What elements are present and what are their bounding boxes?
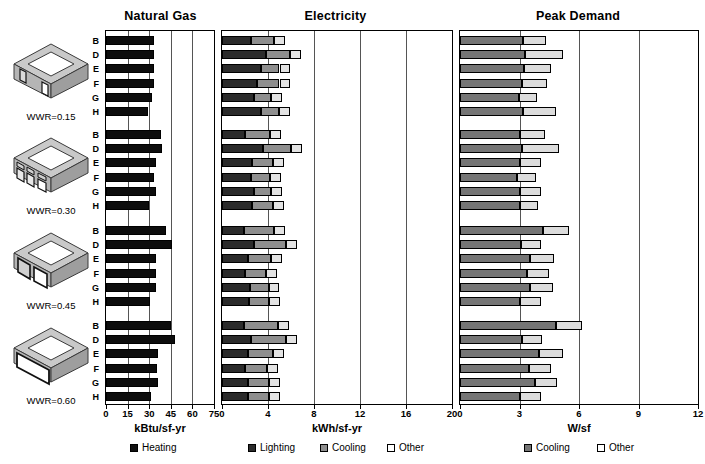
axis-tick-peak_demand-3: 3	[507, 408, 533, 419]
legend-label-other-el: Other	[399, 442, 424, 453]
axis-tick-natural_gas-30: 30	[136, 408, 162, 419]
plot-peak-demand	[459, 30, 699, 405]
legend-electricity-other: Other	[387, 443, 424, 453]
axis-tick-peak_demand-0: 0	[447, 408, 473, 419]
axis-tick-natural_gas-15: 15	[115, 408, 141, 419]
gridline	[579, 31, 580, 404]
legend-label-cooling-pd: Cooling	[536, 442, 570, 453]
tick-mark	[314, 405, 315, 409]
tick-mark	[106, 405, 107, 409]
axis-tick-peak_demand-9: 9	[626, 408, 652, 419]
legend-swatch-other-pd	[597, 444, 605, 452]
building-icon-wwr-060	[10, 322, 92, 394]
tick-mark	[268, 405, 269, 409]
tick-mark	[452, 405, 453, 409]
axis-title-electricity: kWh/sf-yr	[222, 422, 452, 434]
axis-tick-electricity-20: 20	[439, 408, 465, 419]
axis-tick-natural_gas-0: 0	[93, 408, 119, 419]
wwr-label-3: WWR=0.60	[10, 395, 92, 406]
legend-label-lighting: Lighting	[260, 442, 295, 453]
building-icon-wwr-030	[10, 132, 92, 204]
panel-title-peak-demand: Peak Demand	[458, 9, 698, 23]
tick-mark	[460, 405, 461, 409]
tick-mark	[520, 405, 521, 409]
legend-peak-other: Other	[597, 443, 634, 453]
gridline	[314, 31, 315, 404]
panel-title-electricity: Electricity	[218, 9, 453, 23]
legend-swatch-lighting	[248, 444, 256, 452]
axis-tick-peak_demand-12: 12	[685, 408, 705, 419]
building-icon-wwr-015	[10, 38, 92, 110]
tick-mark	[406, 405, 407, 409]
tick-mark	[579, 405, 580, 409]
gridline	[520, 31, 521, 404]
legend-peak-cooling: Cooling	[524, 443, 570, 453]
legend-swatch-other-el	[387, 444, 395, 452]
axis-tick-electricity-12: 12	[347, 408, 373, 419]
axis-tick-electricity-4: 4	[255, 408, 281, 419]
tick-mark	[192, 405, 193, 409]
legend-electricity-lighting: Lighting	[248, 443, 295, 453]
plot-natural-gas	[105, 30, 215, 405]
legend-label-cooling-el: Cooling	[332, 442, 366, 453]
tick-mark	[149, 405, 150, 409]
wwr-label-2: WWR=0.45	[10, 300, 92, 311]
tick-mark	[222, 405, 223, 409]
tick-mark	[360, 405, 361, 409]
legend-label-heating: Heating	[142, 442, 176, 453]
axis-tick-peak_demand-6: 6	[566, 408, 592, 419]
axis-tick-natural_gas-45: 45	[158, 408, 184, 419]
axis-tick-natural_gas-60: 60	[179, 408, 205, 419]
gridline	[268, 31, 269, 404]
wwr-label-1: WWR=0.30	[10, 205, 92, 216]
gridline	[149, 31, 150, 404]
legend-natural-gas-heating: Heating	[130, 443, 176, 453]
legend-swatch-cooling-el	[320, 444, 328, 452]
axis-title-natural_gas: kBtu/sf-yr	[106, 422, 214, 434]
building-icon-wwr-045	[10, 227, 92, 299]
tick-mark	[128, 405, 129, 409]
panel-title-natural-gas: Natural Gas	[98, 9, 223, 23]
gridline	[406, 31, 407, 404]
top-caption	[30, 0, 670, 9]
axis-tick-electricity-16: 16	[393, 408, 419, 419]
gridline	[192, 31, 193, 404]
plot-electricity	[221, 30, 453, 405]
wwr-label-0: WWR=0.15	[10, 111, 92, 122]
legend-electricity-cooling: Cooling	[320, 443, 366, 453]
figure-root: Natural Gas Electricity Peak Demand WWR=…	[0, 0, 705, 464]
legend-swatch-cooling-pd	[524, 444, 532, 452]
legend-swatch-heating	[130, 444, 138, 452]
gridline	[639, 31, 640, 404]
gridline	[171, 31, 172, 404]
tick-mark	[698, 405, 699, 409]
tick-mark	[171, 405, 172, 409]
tick-mark	[214, 405, 215, 409]
gridline	[360, 31, 361, 404]
axis-tick-electricity-0: 0	[209, 408, 235, 419]
axis-title-peak_demand: W/sf	[460, 422, 698, 434]
axis-tick-natural_gas-75: 75	[201, 408, 227, 419]
tick-mark	[639, 405, 640, 409]
gridline	[128, 31, 129, 404]
legend-label-other-pd: Other	[609, 442, 634, 453]
axis-tick-electricity-8: 8	[301, 408, 327, 419]
